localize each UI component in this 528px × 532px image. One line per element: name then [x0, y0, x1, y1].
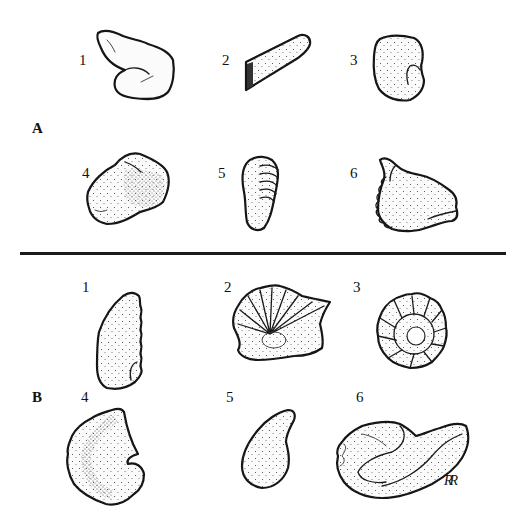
figure-number-a5: 5 — [218, 166, 226, 181]
section-label-a: A — [32, 121, 43, 136]
section-label-b: B — [32, 390, 42, 405]
artist-signature: RR — [444, 473, 455, 489]
specimen-b4-drawing — [64, 404, 144, 506]
specimen-a5-drawing — [240, 156, 282, 232]
specimen-b5-drawing — [240, 408, 300, 492]
specimen-b3-drawing — [374, 290, 450, 370]
figure-number-b3: 3 — [353, 280, 361, 295]
figure-number-a1: 1 — [79, 53, 87, 68]
figure-number-b6: 6 — [356, 390, 364, 405]
figure-number-b4: 4 — [81, 390, 89, 405]
specimen-a6-drawing — [374, 155, 464, 235]
figure-number-b5: 5 — [226, 390, 234, 405]
specimen-a3-drawing — [372, 34, 427, 102]
figure-number-a2: 2 — [222, 53, 230, 68]
specimen-a1-drawing — [93, 30, 178, 102]
figure-number-b1: 1 — [82, 280, 90, 295]
specimen-b2-drawing — [230, 284, 340, 364]
section-divider — [20, 252, 506, 255]
specimen-a4-drawing — [85, 150, 175, 228]
specimen-b1-drawing — [93, 292, 151, 392]
specimen-a2-drawing — [243, 34, 313, 94]
figure-number-a6: 6 — [350, 166, 358, 181]
figure-number-a3: 3 — [350, 53, 358, 68]
